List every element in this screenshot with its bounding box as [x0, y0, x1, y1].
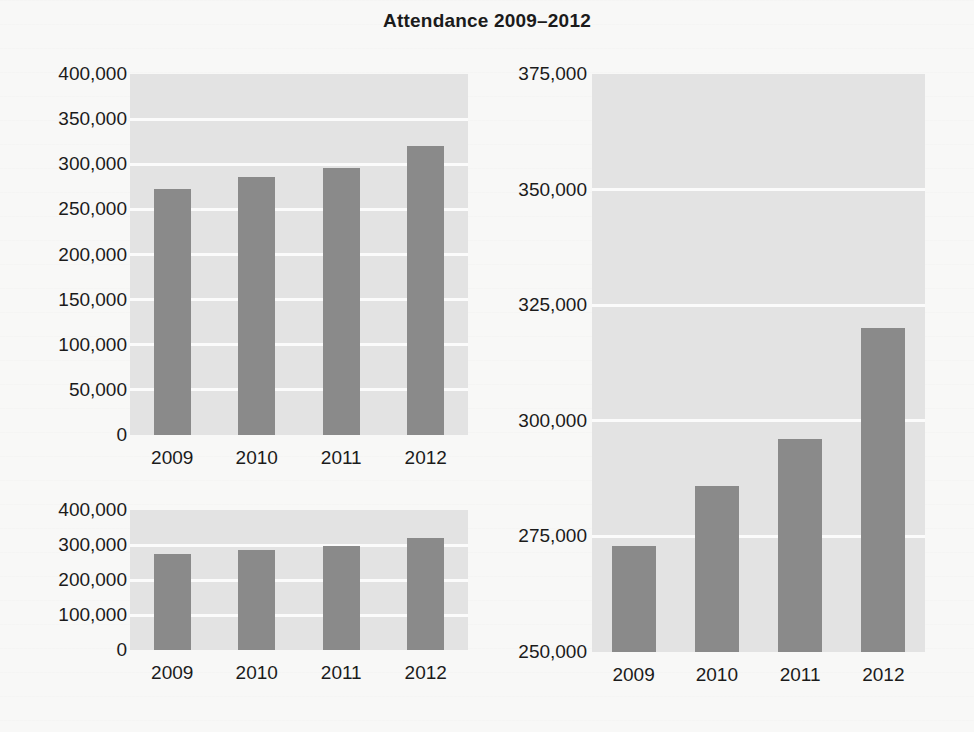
bar — [407, 538, 444, 650]
y-axis-tick-label: 100,000 — [22, 605, 127, 624]
gridline — [130, 118, 468, 121]
gridline — [592, 188, 925, 191]
y-axis-tick-label: 300,000 — [22, 535, 127, 554]
x-axis-tick-label: 2009 — [132, 448, 212, 467]
x-axis-tick-label: 2011 — [760, 665, 840, 684]
bar — [323, 546, 360, 650]
y-axis-tick-label: 0 — [22, 640, 127, 659]
plot-area-top-left — [130, 74, 468, 435]
x-axis-tick-label: 2010 — [217, 663, 297, 682]
gridline — [592, 304, 925, 307]
x-axis-tick-label: 2011 — [301, 448, 381, 467]
y-axis-tick-label: 200,000 — [22, 245, 127, 264]
bar — [612, 546, 656, 652]
y-axis-tick-label: 350,000 — [22, 109, 127, 128]
bar — [778, 439, 822, 652]
x-axis-tick-label: 2009 — [594, 665, 674, 684]
y-axis-tick-label: 250,000 — [482, 642, 587, 661]
y-axis-tick-label: 150,000 — [22, 290, 127, 309]
plot-area-right — [592, 74, 925, 652]
bar — [238, 177, 275, 435]
bar — [407, 146, 444, 435]
x-axis-tick-label: 2010 — [217, 448, 297, 467]
x-axis-tick-label: 2012 — [386, 663, 466, 682]
bar — [238, 550, 275, 650]
y-axis-tick-label: 250,000 — [22, 199, 127, 218]
x-axis-tick-label: 2012 — [843, 665, 923, 684]
y-axis-tick-label: 325,000 — [482, 295, 587, 314]
bar — [861, 328, 905, 652]
x-axis-tick-label: 2009 — [132, 663, 212, 682]
y-axis-tick-label: 50,000 — [22, 380, 127, 399]
y-axis-tick-label: 350,000 — [482, 180, 587, 199]
chart-right: 250,000275,000300,000325,000350,000375,0… — [500, 0, 974, 732]
y-axis-tick-label: 275,000 — [482, 526, 587, 545]
plot-area-bottom-left — [130, 510, 468, 650]
y-axis-tick-label: 300,000 — [482, 411, 587, 430]
y-axis-tick-label: 200,000 — [22, 570, 127, 589]
x-axis-tick-label: 2012 — [386, 448, 466, 467]
bar — [154, 554, 191, 650]
x-axis-tick-label: 2011 — [301, 663, 381, 682]
bar — [154, 189, 191, 435]
bar — [695, 486, 739, 652]
bar — [323, 168, 360, 435]
y-axis-tick-label: 100,000 — [22, 335, 127, 354]
x-axis-tick-label: 2010 — [677, 665, 757, 684]
y-axis-tick-label: 400,000 — [22, 64, 127, 83]
chart-top-left: 050,000100,000150,000200,000250,000300,0… — [0, 0, 500, 480]
y-axis-tick-label: 300,000 — [22, 154, 127, 173]
y-axis-tick-label: 400,000 — [22, 500, 127, 519]
chart-bottom-left: 0100,000200,000300,000400,00020092010201… — [0, 480, 500, 732]
y-axis-tick-label: 375,000 — [482, 64, 587, 83]
y-axis-tick-label: 0 — [22, 425, 127, 444]
